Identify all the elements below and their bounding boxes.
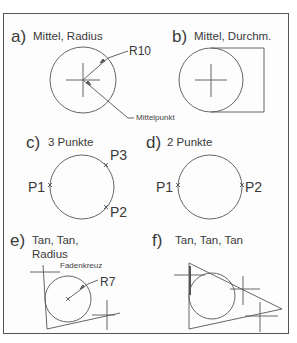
- panel-d-letter: d): [146, 134, 161, 151]
- panel-e-radius-label: R7: [100, 276, 115, 288]
- panel-c-letter: c): [26, 134, 40, 151]
- panel-f-title: Tan, Tan, Tan: [175, 235, 243, 247]
- panel-e-crosshair-label: Fadenkreuz: [60, 262, 102, 270]
- panel-c-point-p2: P2: [110, 205, 127, 219]
- panel-a-radius-label: R10: [129, 45, 151, 57]
- panel-a-geometry: [50, 47, 134, 118]
- panel-d-point-p2: P2: [245, 180, 262, 194]
- panel-c-point-p1: P1: [28, 180, 45, 194]
- panel-c-geometry: [48, 155, 114, 219]
- panel-a-letter: a): [11, 28, 26, 45]
- panel-f-geometry: [174, 263, 282, 332]
- panel-a-center-label: Mittelpunkt: [136, 114, 175, 122]
- panel-e-letter: e): [10, 232, 25, 249]
- panel-c-title: 3 Punkte: [48, 137, 93, 149]
- panel-d-point-p1: P1: [156, 180, 173, 194]
- panel-b-title: Mittel, Durchm.: [194, 31, 271, 43]
- panel-c-point-p3: P3: [110, 148, 127, 162]
- panel-a-title: Mittel, Radius: [33, 31, 103, 43]
- panel-e-title-line2: Radius: [32, 249, 68, 261]
- panel-f-letter: f): [152, 232, 162, 249]
- panel-d-geometry: [176, 155, 244, 219]
- panel-d-title: 2 Punkte: [167, 137, 212, 149]
- panel-b-letter: b): [172, 28, 187, 45]
- panel-e-title-line1: Tan, Tan,: [32, 235, 78, 247]
- panel-b-geometry: [179, 48, 264, 112]
